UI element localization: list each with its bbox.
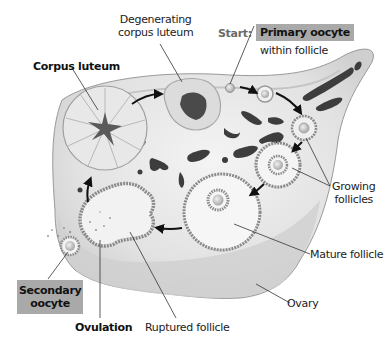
corpus-luteum	[63, 86, 147, 170]
arrow-to-ruptured	[158, 228, 182, 229]
label-line: Growing	[332, 180, 375, 193]
label-growing-follicles: Growing follicles	[332, 180, 375, 206]
small-follicle	[257, 86, 273, 102]
label-degenerating-corpus-luteum: Degenerating corpus luteum	[118, 13, 193, 39]
mature-follicle	[184, 174, 260, 250]
label-ovulation: Ovulation	[75, 321, 132, 334]
label-within-follicle: within follicle	[260, 44, 328, 57]
label-secondary-oocyte: Secondary oocyte	[17, 280, 83, 314]
label-ruptured-follicle: Ruptured follicle	[145, 321, 229, 334]
secondary-oocyte	[61, 237, 79, 255]
label-line: corpus luteum	[118, 26, 193, 39]
growing-follicle-small	[292, 116, 316, 140]
primary-oocyte	[226, 84, 235, 93]
label-corpus-luteum: Corpus luteum	[33, 60, 120, 73]
label-ovary: Ovary	[287, 297, 318, 310]
label-line: follicles	[332, 193, 375, 206]
label-line: Secondary	[19, 284, 81, 297]
label-start: Start:	[218, 27, 252, 40]
label-primary-oocyte: Primary oocyte	[256, 24, 354, 41]
label-line: Degenerating	[118, 13, 193, 26]
growing-follicle-large	[256, 143, 300, 187]
label-line: oocyte	[19, 297, 81, 310]
label-mature-follicle: Mature follicle	[310, 248, 383, 261]
